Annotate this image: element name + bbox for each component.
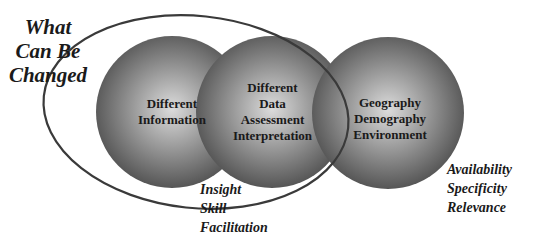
data-line-4: Interpretation xyxy=(205,128,340,144)
skill-text: Skill xyxy=(200,199,268,218)
title-line-2: Can Be xyxy=(2,39,94,63)
title-line-1: What xyxy=(2,15,94,39)
bottom-factors-label: Insight Skill Facilitation xyxy=(200,180,268,237)
circle-context-label: Geography Demography Environment xyxy=(340,95,440,143)
context-line-1: Geography xyxy=(340,95,440,111)
context-line-2: Demography xyxy=(340,111,440,127)
relevance-text: Relevance xyxy=(447,198,512,217)
facilitation-text: Facilitation xyxy=(200,218,268,237)
context-line-3: Environment xyxy=(340,127,440,143)
availability-text: Availability xyxy=(447,160,512,179)
data-line-1: Different xyxy=(205,80,340,96)
title-line-3: Changed xyxy=(2,63,94,87)
right-factors-label: Availability Specificity Relevance xyxy=(447,160,512,217)
data-line-2: Data xyxy=(205,96,340,112)
data-line-3: Assessment xyxy=(205,112,340,128)
specificity-text: Specificity xyxy=(447,179,512,198)
what-can-be-changed-label: What Can Be Changed xyxy=(2,15,94,87)
circle-data-label: Different Data Assessment Interpretation xyxy=(205,80,340,144)
insight-text: Insight xyxy=(200,180,268,199)
